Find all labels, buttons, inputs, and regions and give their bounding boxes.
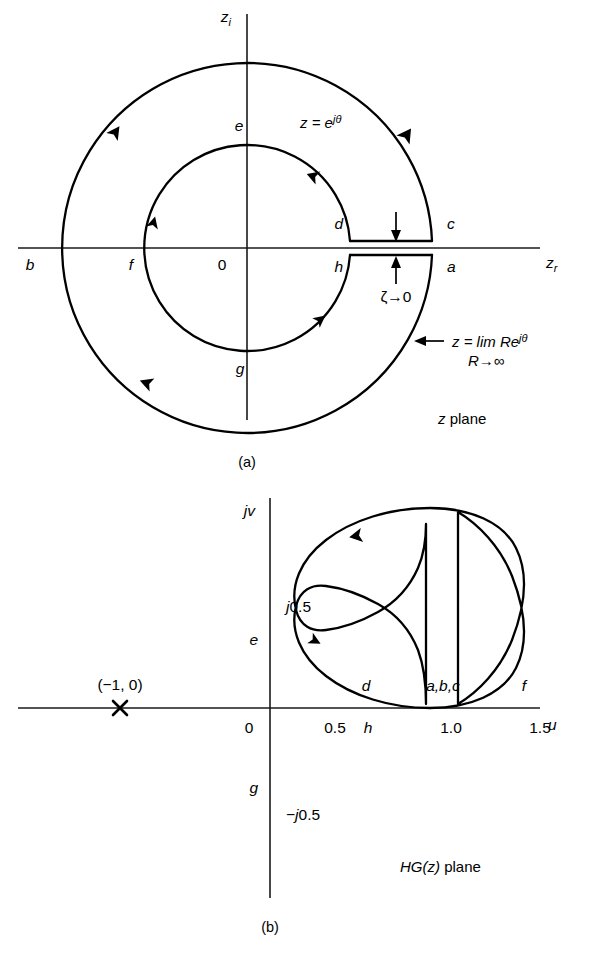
point-label-f-b: f <box>522 677 528 694</box>
point-label-d-b: d <box>362 677 372 694</box>
point-label-abc: a,b,c <box>426 677 460 694</box>
outer-circle-limit: R→∞ <box>468 352 505 369</box>
big-circle-pointer-head <box>414 336 426 346</box>
u-tick-label-1-0: 1.0 <box>440 719 462 736</box>
axis-label-zr: zr <box>545 254 559 274</box>
u-tick-label-1-5: 1.5 <box>529 719 551 736</box>
point-label-b: b <box>26 256 35 273</box>
point-label-c: c <box>447 215 455 232</box>
v-tick-label-negative: −j0.5 <box>286 806 320 823</box>
u-tick-label-0-5: 0.5 <box>324 719 346 736</box>
figure-root: zi zr 0 b f e g d h c a z = ejθ z = lim … <box>0 0 589 957</box>
axis-label-jv: jv <box>242 502 256 519</box>
arrowhead-outer-lower-left <box>137 374 154 392</box>
hgz-locus-curve <box>294 508 524 708</box>
panel-a-z-plane: zi zr 0 b f e g d h c a z = ejθ z = lim … <box>0 0 589 480</box>
point-label-e: e <box>235 117 244 134</box>
plane-label-a: z plane <box>437 410 486 427</box>
arrowhead-unit-upper-right <box>304 167 320 184</box>
gap-arrow-up-head <box>391 256 401 268</box>
point-label-e-b: e <box>249 631 258 648</box>
point-label-h-b: h <box>364 719 373 736</box>
v-tick-label-positive: j0.5 <box>284 598 311 615</box>
arrowhead-locus-upper <box>348 528 363 544</box>
unit-circle-equation: z = ejθ <box>299 113 341 131</box>
point-label-g: g <box>236 360 245 377</box>
slit-gap-annotation: ζ→0 <box>381 288 412 305</box>
point-label-a: a <box>447 258 456 275</box>
critical-point-label: (−1, 0) <box>97 676 142 693</box>
arrowhead-locus-mid <box>307 633 323 649</box>
point-label-f: f <box>129 256 135 273</box>
outer-circle-equation: z = lim Rejθ <box>451 332 528 350</box>
plane-label-b: HG(z) plane <box>400 858 481 875</box>
axis-label-zi: zi <box>220 8 232 28</box>
point-label-g-b: g <box>249 779 258 796</box>
point-label-d: d <box>334 215 344 232</box>
panel-b-hgz-plane: jv u 0 0.5 1.0 1.5 j0.5 −j0.5 (−1, 0) e … <box>0 480 589 957</box>
point-label-h: h <box>334 258 343 275</box>
caption-a: (a) <box>238 454 256 470</box>
caption-b: (b) <box>261 919 279 935</box>
origin-label-a: 0 <box>218 256 227 273</box>
origin-label-b: 0 <box>245 719 254 736</box>
